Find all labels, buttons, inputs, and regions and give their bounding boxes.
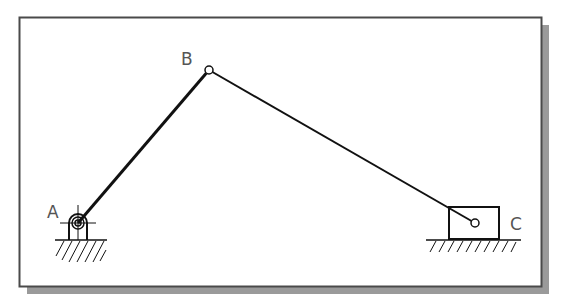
- joint-c-pin: [471, 219, 479, 227]
- label-b: B: [181, 49, 193, 69]
- slider-crank-diagram: A B C: [0, 0, 564, 308]
- label-a: A: [47, 202, 59, 222]
- frame-border: [20, 18, 542, 287]
- joint-b-pin: [205, 66, 213, 74]
- label-c: C: [510, 214, 522, 234]
